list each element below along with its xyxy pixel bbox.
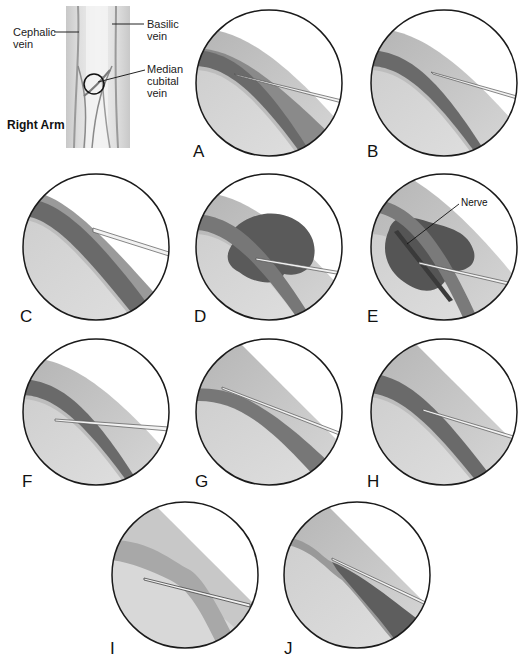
panel-a-illustration bbox=[194, 8, 344, 158]
panel-i bbox=[110, 500, 260, 650]
panel-i-label: I bbox=[110, 640, 115, 657]
panel-g-illustration bbox=[194, 337, 344, 487]
panel-c-illustration bbox=[21, 172, 171, 322]
median-label-line2: cubital bbox=[147, 75, 183, 87]
panel-h-illustration bbox=[369, 337, 519, 487]
cephalic-label-line1: Cephalic bbox=[13, 26, 56, 38]
panel-c-label: C bbox=[20, 308, 32, 325]
basilic-label-line1: Basilic bbox=[147, 18, 179, 30]
panel-a-label: A bbox=[193, 143, 204, 160]
panel-d-label: D bbox=[194, 308, 206, 325]
panel-c bbox=[21, 172, 171, 322]
panel-j-label: J bbox=[284, 640, 293, 657]
panel-f bbox=[21, 337, 171, 487]
panel-d-illustration bbox=[194, 172, 344, 322]
panel-j-illustration bbox=[282, 500, 432, 650]
panel-a bbox=[194, 8, 344, 158]
median-label-line1: Median bbox=[147, 63, 183, 75]
panel-i-illustration bbox=[110, 500, 260, 650]
panel-f-illustration bbox=[21, 337, 171, 487]
panel-b-illustration bbox=[369, 8, 519, 158]
panel-h bbox=[369, 337, 519, 487]
arm-title: Right Arm bbox=[7, 118, 65, 132]
basilic-vein-label: Basilic vein bbox=[147, 18, 179, 42]
cephalic-label-line2: vein bbox=[13, 38, 56, 50]
basilic-label-line2: vein bbox=[147, 30, 179, 42]
panel-e: Nerve bbox=[369, 172, 519, 322]
panel-e-label: E bbox=[367, 308, 378, 325]
panel-b-label: B bbox=[367, 143, 378, 160]
nerve-label: Nerve bbox=[461, 197, 488, 208]
median-cubital-vein-label: Median cubital vein bbox=[147, 63, 183, 99]
panel-f-label: F bbox=[22, 473, 32, 490]
median-label-line3: vein bbox=[147, 87, 183, 99]
panel-j bbox=[282, 500, 432, 650]
panel-b bbox=[369, 8, 519, 158]
panel-d bbox=[194, 172, 344, 322]
panel-g bbox=[194, 337, 344, 487]
panel-h-label: H bbox=[367, 473, 379, 490]
panel-e-illustration bbox=[369, 172, 519, 322]
cephalic-vein-label: Cephalic vein bbox=[13, 26, 56, 50]
panel-g-label: G bbox=[195, 473, 208, 490]
